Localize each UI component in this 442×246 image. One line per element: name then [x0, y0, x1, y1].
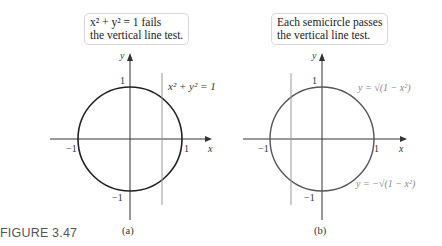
tick-x-pos-b: 1 — [374, 143, 379, 154]
tick-x-pos-a: 1 — [184, 143, 189, 154]
figure-caption: FIGURE 3.47 — [0, 226, 77, 240]
callout-a: x² + y² = 1 fails the vertical line test… — [84, 13, 189, 45]
y-axis-label-b: y — [312, 50, 316, 61]
tick-x-neg-a: −1 — [66, 143, 77, 154]
upper-semicircle-label: y = √(1 − x²) — [358, 82, 411, 93]
tick-y-neg-a: −1 — [112, 192, 123, 203]
tick-y-neg-b: −1 — [304, 192, 315, 203]
tick-y-pos-a: 1 — [120, 75, 125, 86]
curve-label-a: x² + y² = 1 — [168, 80, 216, 92]
callout-b-line-1: Each semicircle passes — [277, 16, 382, 29]
x-axis-label-b: x — [399, 143, 403, 154]
callout-a-line-2: the vertical line test. — [90, 29, 183, 42]
tick-x-neg-b: −1 — [258, 143, 269, 154]
tick-y-pos-b: 1 — [312, 75, 317, 86]
panel-b-graph — [243, 53, 407, 220]
callout-b: Each semicircle passes the vertical line… — [271, 13, 388, 45]
lower-semicircle-label: y = −√(1 − x²) — [356, 178, 415, 189]
sublabel-a: (a) — [122, 225, 134, 236]
callout-a-line-1: x² + y² = 1 fails — [90, 16, 183, 29]
callout-b-line-2: the vertical line test. — [277, 29, 382, 42]
panel-a-graph — [50, 53, 212, 220]
y-axis-label-a: y — [120, 50, 124, 61]
sublabel-b: (b) — [314, 225, 326, 236]
x-axis-label-a: x — [208, 143, 212, 154]
